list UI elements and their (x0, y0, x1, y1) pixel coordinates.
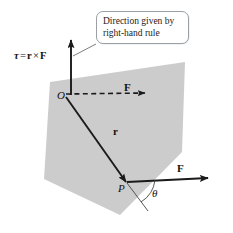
label-point-p: P (118, 183, 125, 194)
label-angle-theta: θ (152, 188, 157, 199)
callout-leader-line (73, 44, 96, 56)
equation-cross-sign: × (32, 50, 40, 61)
right-hand-rule-callout: Direction given by right-hand rule (96, 11, 189, 44)
equation-equals-sign: = (19, 50, 27, 61)
label-force-at-o: F (124, 82, 131, 93)
force-vector-at-p (127, 178, 208, 182)
label-origin-o: O (57, 90, 65, 101)
callout-line-2: right-hand rule (103, 27, 183, 39)
callout-line-1: Direction given by (103, 15, 183, 27)
position-vector-r (66, 97, 126, 182)
torque-equation: τ=r×F (14, 51, 47, 62)
torque-figure: τ=r×F Direction given by right-hand rule… (0, 0, 233, 233)
force-vector-at-o-dashed (66, 93, 145, 94)
r-extension-line (127, 183, 148, 211)
label-force-at-p: F (177, 163, 184, 174)
label-r-vector: r (113, 126, 118, 137)
equation-force-symbol: F (40, 50, 47, 61)
